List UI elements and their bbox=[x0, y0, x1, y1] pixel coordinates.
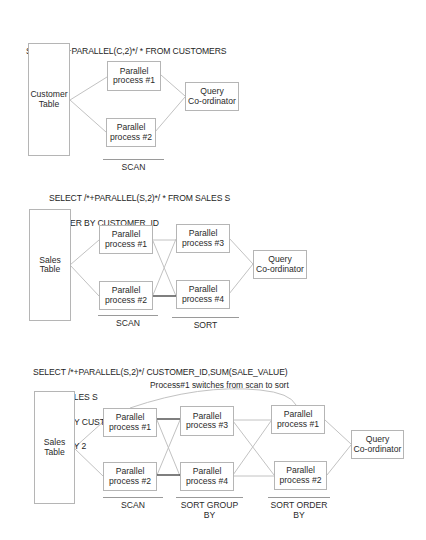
sales-table-box: SalesTable bbox=[29, 209, 71, 321]
stage-divider-scan bbox=[103, 159, 164, 160]
stage-divider-sort-group-by bbox=[176, 497, 243, 498]
sql-line: SELECT /*+PARALLEL(S,2)*/ CUSTOMER_ID,SU… bbox=[33, 368, 288, 376]
parallel-process-3-box: Parallelprocess #3 bbox=[176, 224, 230, 253]
query-coordinator-box: QueryCo-ordinator bbox=[253, 250, 307, 279]
stage-label-scan: SCAN bbox=[103, 501, 163, 511]
parallel-process-1-box: Parallelprocess #1 bbox=[107, 61, 161, 91]
stage-label-scan: SCAN bbox=[103, 163, 164, 173]
parallel-process-2-sort-box: Parallelprocess #2 bbox=[274, 461, 327, 490]
customer-table-box: CustomerTable bbox=[28, 43, 70, 156]
stage-label-sort-group-by: SORT GROUP BY bbox=[176, 501, 243, 520]
stage-divider-sort-order-by bbox=[268, 497, 330, 498]
sales-table-box: SalesTable bbox=[34, 391, 75, 504]
parallel-process-1-sort-box: Parallelprocess #1 bbox=[271, 405, 325, 434]
query-coordinator-box: QueryCo-ordinator bbox=[351, 430, 404, 459]
sql-line: SELECT /*+PARALLEL(S,2)*/ * FROM SALES S bbox=[49, 194, 230, 202]
stage-divider-scan bbox=[98, 315, 158, 316]
parallel-process-1-box: Parallelprocess #1 bbox=[103, 408, 157, 437]
parallel-process-2-box: Parallelprocess #2 bbox=[106, 118, 156, 147]
parallel-process-2-box: Parallelprocess #2 bbox=[99, 281, 153, 310]
parallel-process-3-box: Parallelprocess #3 bbox=[180, 406, 234, 436]
parallel-process-2-box: Parallelprocess #2 bbox=[103, 462, 157, 491]
stage-divider-scan bbox=[103, 497, 163, 498]
stage-label-sort-order-by: SORT ORDER BY bbox=[268, 501, 330, 520]
parallel-process-4-box: Parallelprocess #4 bbox=[180, 462, 234, 491]
query-coordinator-box: QueryCo-ordinator bbox=[185, 82, 239, 111]
stage-divider-sort bbox=[172, 317, 239, 318]
stage-label-scan: SCAN bbox=[98, 319, 158, 329]
parallel-process-1-box: Parallelprocess #1 bbox=[99, 225, 153, 254]
parallel-process-4-box: Parallelprocess #4 bbox=[176, 280, 230, 309]
stage-label-sort: SORT bbox=[172, 321, 239, 331]
process-switch-note: Process#1 switches from scan to sort bbox=[150, 380, 289, 390]
